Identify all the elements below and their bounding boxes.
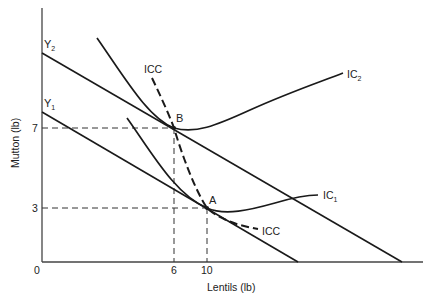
ic2-label: IC2 (347, 68, 362, 82)
indifference-curve-ic2 (97, 38, 343, 130)
point-b-marker (172, 126, 176, 130)
icc-label-bottom: ICC (262, 225, 281, 237)
budget-line-y2-label: Y2 (44, 38, 55, 52)
budget-line-y2 (42, 53, 402, 262)
indifference-curve-ic1 (127, 118, 318, 212)
x-axis-label: Lentils (lb) (207, 281, 255, 293)
ic1-label: IC1 (323, 189, 338, 203)
budget-line-y1-label: Y1 (44, 97, 55, 111)
y-tick-3: 3 (32, 202, 38, 214)
icc-label-top: ICC (144, 63, 163, 75)
income-consumption-diagram: Y2 Y1 IC2 IC1 ICC ICC B A 7 3 0 6 10 Len… (0, 0, 433, 301)
income-consumption-curve (152, 78, 258, 229)
point-a-label: A (209, 194, 217, 206)
y-tick-7: 7 (32, 122, 38, 134)
labels: Y2 Y1 IC2 IC1 ICC ICC B A 7 3 0 6 10 Len… (9, 38, 362, 293)
x-tick-10: 10 (201, 264, 213, 276)
y-axis-label: Mutton (lb) (9, 118, 21, 168)
x-tick-6: 6 (171, 264, 177, 276)
point-a-marker (205, 206, 209, 210)
budget-line-y1 (42, 112, 298, 262)
origin-label: 0 (34, 264, 40, 276)
point-b-label: B (176, 112, 183, 124)
